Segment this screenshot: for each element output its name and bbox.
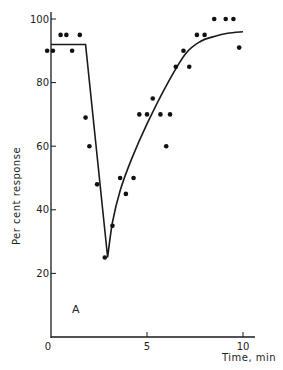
data-point — [231, 17, 236, 22]
data-point — [45, 49, 50, 54]
data-point — [58, 33, 63, 38]
chart: 204060801000510 A Time, min Per cent res… — [0, 0, 283, 370]
data-point — [78, 33, 83, 38]
data-point — [137, 112, 142, 117]
x-tick-label: 0 — [45, 341, 51, 352]
data-point — [70, 49, 75, 54]
data-point — [64, 33, 69, 38]
data-point — [168, 112, 173, 117]
data-point — [87, 144, 92, 149]
fitted-curve — [51, 32, 243, 258]
data-point — [51, 49, 56, 54]
y-tick-label: 80 — [36, 77, 49, 88]
data-point — [145, 112, 150, 117]
data-point — [110, 223, 115, 228]
data-point — [102, 255, 107, 260]
data-point — [124, 192, 129, 197]
data-point — [118, 176, 123, 181]
data-point — [150, 96, 155, 101]
data-point — [195, 33, 200, 38]
data-point — [83, 115, 88, 120]
panel-label: A — [72, 303, 80, 316]
y-tick-label: 20 — [36, 268, 49, 279]
fitted-line — [51, 32, 243, 258]
data-points — [45, 17, 242, 260]
axes: 204060801000510 — [30, 12, 255, 352]
data-point — [158, 112, 163, 117]
y-tick-label: 60 — [36, 141, 49, 152]
data-point — [223, 17, 228, 22]
x-tick-label: 5 — [144, 341, 150, 352]
data-point — [131, 176, 136, 181]
data-point — [181, 49, 186, 54]
x-axis-title: Time, min — [221, 352, 276, 363]
data-point — [202, 33, 207, 38]
y-tick-label: 40 — [36, 204, 49, 215]
y-axis-title: Per cent response — [11, 147, 22, 245]
data-point — [174, 64, 179, 69]
y-tick-label: 100 — [30, 14, 49, 25]
x-tick-label: 10 — [237, 341, 250, 352]
data-point — [164, 144, 169, 149]
data-point — [237, 45, 242, 50]
data-point — [187, 64, 192, 69]
data-point — [212, 17, 217, 22]
data-point — [95, 182, 100, 187]
